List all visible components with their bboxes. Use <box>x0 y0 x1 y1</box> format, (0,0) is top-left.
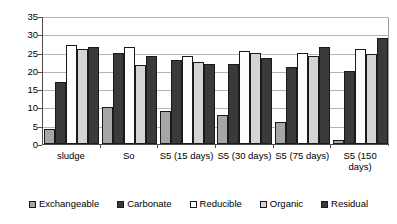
legend-item[interactable]: Exchangeable <box>29 199 99 209</box>
y-axis-tick-label: 25 <box>27 49 38 59</box>
legend-swatch-icon <box>321 201 328 208</box>
legend-label: Exchangeable <box>39 199 99 209</box>
bar[interactable] <box>204 64 215 144</box>
bar[interactable] <box>239 51 250 144</box>
y-axis-tick-mark <box>38 108 42 109</box>
bar[interactable] <box>66 45 77 144</box>
bar-groups <box>43 17 389 144</box>
y-axis-tick-mark <box>38 145 42 146</box>
x-axis-label: So <box>100 150 158 184</box>
bar[interactable] <box>228 64 239 144</box>
plot-area <box>42 17 389 145</box>
x-axis-tick-mark <box>157 144 158 148</box>
bar[interactable] <box>275 122 286 144</box>
bar[interactable] <box>88 47 99 144</box>
bar-group <box>101 17 159 144</box>
bar[interactable] <box>344 71 355 144</box>
bar[interactable] <box>182 56 193 144</box>
y-axis-tick-label: 30 <box>27 30 38 40</box>
legend-item[interactable]: Reducible <box>190 199 242 209</box>
legend-swatch-icon <box>117 201 124 208</box>
bar[interactable] <box>366 54 377 144</box>
bar[interactable] <box>135 65 146 144</box>
x-axis-label: S5 (15 days) <box>158 150 216 184</box>
legend-label: Organic <box>270 199 303 209</box>
bar-chart: 35302520151050 sludgeSoS5 (15 days)S5 (3… <box>0 0 397 224</box>
bar[interactable] <box>377 38 388 144</box>
bar[interactable] <box>261 58 272 144</box>
bar[interactable] <box>124 47 135 144</box>
bar[interactable] <box>160 111 171 144</box>
bar[interactable] <box>171 60 182 144</box>
bar[interactable] <box>113 53 124 144</box>
bar[interactable] <box>217 115 228 144</box>
y-axis-tick-label: 35 <box>27 12 38 22</box>
bar[interactable] <box>44 129 55 144</box>
x-axis-tick-mark <box>215 144 216 148</box>
x-axis-label: sludge <box>42 150 100 184</box>
x-axis-label: S5 (150 days) <box>331 150 389 184</box>
y-axis-tick-mark <box>38 90 42 91</box>
x-axis-tick-mark <box>273 144 274 148</box>
bar[interactable] <box>146 56 157 144</box>
x-axis-tick-mark <box>330 144 331 148</box>
bar[interactable] <box>77 49 88 144</box>
y-axis-tick-mark <box>38 54 42 55</box>
bar[interactable] <box>319 47 330 144</box>
bar[interactable] <box>355 49 366 144</box>
bar[interactable] <box>102 107 113 144</box>
bar[interactable] <box>55 82 66 144</box>
y-axis-tick-label: 10 <box>27 103 38 113</box>
legend-swatch-icon <box>260 201 267 208</box>
legend-label: Residual <box>331 199 368 209</box>
legend-item[interactable]: Residual <box>321 199 368 209</box>
bar-group <box>158 17 216 144</box>
y-axis-tick-label: 20 <box>27 67 38 77</box>
legend-item[interactable]: Organic <box>260 199 303 209</box>
bar[interactable] <box>193 62 204 144</box>
y-axis-tick-label: 15 <box>27 85 38 95</box>
x-axis-label: S5 (30 days) <box>215 150 273 184</box>
x-axis-label: S5 (75 days) <box>273 150 331 184</box>
x-axis-tick-mark <box>100 144 101 148</box>
bar[interactable] <box>286 67 297 144</box>
legend-item[interactable]: Carbonate <box>117 199 171 209</box>
x-axis-labels: sludgeSoS5 (15 days)S5 (30 days)S5 (75 d… <box>42 150 389 184</box>
chart-legend: ExchangeableCarbonateReducibleOrganicRes… <box>0 196 397 212</box>
bar[interactable] <box>333 140 344 144</box>
legend-label: Carbonate <box>127 199 171 209</box>
bar-group <box>216 17 274 144</box>
bar-group <box>274 17 332 144</box>
y-axis-tick-mark <box>38 72 42 73</box>
y-axis-tick-mark <box>38 17 42 18</box>
legend-swatch-icon <box>29 201 36 208</box>
y-axis-tick-mark <box>38 35 42 36</box>
bar[interactable] <box>297 53 308 144</box>
bar[interactable] <box>308 56 319 144</box>
legend-label: Reducible <box>200 199 242 209</box>
bar-group <box>331 17 389 144</box>
bar-group <box>43 17 101 144</box>
legend-swatch-icon <box>190 201 197 208</box>
y-axis-tick-mark <box>38 127 42 128</box>
bar[interactable] <box>250 53 261 144</box>
